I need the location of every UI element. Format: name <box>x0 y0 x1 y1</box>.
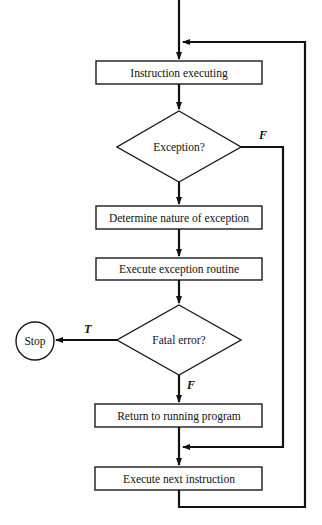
determine-nature-label: Determine nature of exception <box>109 212 249 225</box>
exception-decision-label: Exception? <box>153 141 205 154</box>
fatal-false-label: F <box>186 378 195 392</box>
flowchart: Instruction executing Exception? F Deter… <box>0 0 322 525</box>
exception-false-label: F <box>258 128 267 142</box>
exception-false-arrow <box>183 147 283 447</box>
fatal-true-label: T <box>84 322 92 336</box>
execute-routine-label: Execute exception routine <box>119 263 239 276</box>
instruction-executing-label: Instruction executing <box>130 67 228 80</box>
fatal-decision-label: Fatal error? <box>152 334 205 346</box>
execute-next-label: Execute next instruction <box>123 473 235 485</box>
return-to-program-label: Return to running program <box>117 410 241 423</box>
stop-label: Stop <box>24 335 45 348</box>
